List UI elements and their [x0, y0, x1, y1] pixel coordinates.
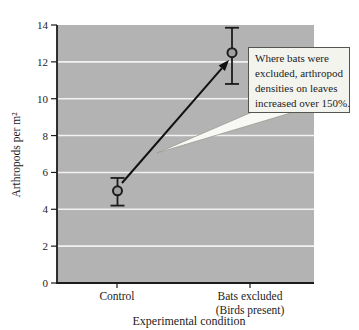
figure: 02468101214ControlBats excluded(Birds pr… [0, 0, 359, 330]
y-tick-label: 2 [43, 240, 49, 252]
y-tick-label: 12 [37, 56, 48, 68]
annotation-callout-box: Where bats were excluded, arthropod dens… [248, 47, 350, 113]
y-tick-label: 14 [37, 19, 49, 31]
x-axis-title: Experimental condition [133, 314, 246, 328]
y-tick-label: 10 [37, 93, 49, 105]
y-tick-label: 8 [43, 130, 49, 142]
annotation-text-line: excluded, arthropod [255, 66, 349, 81]
annotation-text-line: Where bats were [255, 51, 349, 66]
annotation-text-line: increased over 150%. [255, 96, 349, 111]
x-category-label: Control [99, 290, 134, 302]
y-tick-label: 6 [43, 166, 49, 178]
y-axis-title: Arthropods per m² [10, 112, 23, 198]
x-category-label: Bats excluded [218, 290, 283, 302]
y-tick-label: 4 [43, 203, 49, 215]
data-point [228, 48, 237, 57]
data-point [113, 186, 122, 195]
y-tick-label: 0 [43, 277, 49, 289]
annotation-text-line: densities on leaves [255, 81, 349, 96]
